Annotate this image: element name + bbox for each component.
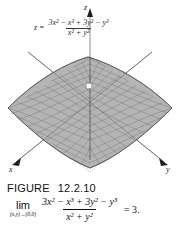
limit-subscript: (x,y)→(0,0) (10, 212, 36, 218)
surface-equation-numerator: 3x² − x³ + 3y² − y³ (47, 19, 111, 28)
figure-container: z = 3x² − x³ + 3y² − y³ x² + y² z x y FI… (0, 0, 180, 230)
caption-limit-expression: lim (x,y)→(0,0) 3x² − x³ + 3y² − y³ x² +… (10, 196, 140, 222)
caption-fraction-denominator: x² + y² (63, 209, 96, 223)
surface-equation-denominator: x² + y² (66, 28, 91, 38)
discontinuity-hole-marker (87, 84, 92, 89)
x-axis-label: x (9, 166, 13, 174)
caption-title-line: FIGURE 12.2.10 (7, 182, 96, 194)
caption-fraction: 3x² − x³ + 3y² − y³ x² + y² (39, 196, 120, 222)
caption-limit-result: = 3. (124, 204, 140, 215)
caption-fraction-numerator: 3x² − x³ + 3y² − y³ (39, 196, 120, 209)
z-axis-label: z (84, 4, 87, 12)
z-axis-arrowhead (87, 8, 93, 17)
surface-equation-lhs: z = (34, 24, 45, 32)
surface-plot: z = 3x² − x³ + 3y² − y³ x² + y² z x y (0, 0, 180, 182)
figure-caption: FIGURE 12.2.10 lim (x,y)→(0,0) 3x² − x³ … (0, 182, 180, 230)
caption-figure-number: 12.2.10 (58, 182, 96, 194)
y-axis-label: y (166, 166, 170, 174)
surface-equation: z = 3x² − x³ + 3y² − y³ x² + y² (34, 19, 111, 38)
caption-figure-word: FIGURE (7, 182, 50, 194)
surface-equation-fraction: 3x² − x³ + 3y² − y³ x² + y² (47, 19, 111, 38)
limit-operator-block: lim (x,y)→(0,0) (10, 200, 36, 217)
